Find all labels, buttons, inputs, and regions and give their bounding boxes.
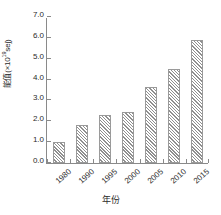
y-axis-tick: 2.0 xyxy=(47,120,51,121)
bar xyxy=(99,115,111,163)
y-axis-tick-mark xyxy=(47,37,51,38)
y-axis-tick-mark xyxy=(47,16,51,17)
y-axis-tick-mark xyxy=(47,141,51,142)
y-axis-tick-mark xyxy=(47,58,51,59)
x-axis-tick-mark xyxy=(70,159,71,163)
bar-chart-figure: 能值(×1019sej) 0.01.02.03.04.05.06.07.0 19… xyxy=(0,0,221,215)
x-axis-tick-mark xyxy=(47,159,48,163)
y-axis-tick-mark xyxy=(47,120,51,121)
y-axis-tick: 4.0 xyxy=(47,79,51,80)
y-axis-tick-label: 2.0 xyxy=(22,114,44,123)
y-axis-title-head: 能值(×10 xyxy=(3,57,12,88)
bar xyxy=(168,69,180,163)
y-axis-tick: 3.0 xyxy=(47,99,51,100)
x-axis-tick-label: 1980 xyxy=(47,167,72,191)
y-axis-tick: 1.0 xyxy=(47,141,51,142)
plot-area: 0.01.02.03.04.05.06.07.0 xyxy=(46,18,208,164)
y-axis-tick-label: 6.0 xyxy=(22,31,44,40)
y-axis-tick-label: 3.0 xyxy=(22,93,44,102)
x-axis-tick-mark xyxy=(186,159,187,163)
y-axis-tick-label: 1.0 xyxy=(22,135,44,144)
y-axis-tick: 6.0 xyxy=(47,37,51,38)
bar xyxy=(122,112,134,163)
x-axis-tick-label: 2010 xyxy=(163,167,188,191)
bar xyxy=(76,125,88,163)
x-axis-tick-label: 1990 xyxy=(70,167,95,191)
y-axis-tick: 7.0 xyxy=(47,16,51,17)
bar xyxy=(191,40,203,163)
y-axis-tick-mark xyxy=(47,79,51,80)
x-axis-tick-mark xyxy=(93,159,94,163)
x-axis-tick-mark xyxy=(208,159,209,163)
bar xyxy=(53,142,65,163)
y-axis-title-tail: sej) xyxy=(3,40,12,52)
x-axis-title: 年份 xyxy=(0,193,221,206)
y-axis-tick: 5.0 xyxy=(47,58,51,59)
y-axis-tick-mark xyxy=(47,99,51,100)
y-axis-tick-label: 0.0 xyxy=(22,156,44,165)
x-axis-tick-mark xyxy=(116,159,117,163)
y-axis-title-exponent: 19 xyxy=(1,52,7,58)
y-axis-tick-label: 4.0 xyxy=(22,73,44,82)
bar xyxy=(145,87,157,163)
y-axis-title: 能值(×1019sej) xyxy=(2,24,14,104)
y-axis-tick-label: 7.0 xyxy=(22,10,44,19)
x-axis-tick-label: 1995 xyxy=(94,167,119,191)
x-axis-tick-label: 2005 xyxy=(140,167,165,191)
x-axis-tick-label: 2000 xyxy=(117,167,142,191)
x-axis-tick-mark xyxy=(163,159,164,163)
x-axis-tick-mark xyxy=(140,159,141,163)
y-axis-tick-label: 5.0 xyxy=(22,52,44,61)
x-axis-tick-label: 2015 xyxy=(186,167,211,191)
